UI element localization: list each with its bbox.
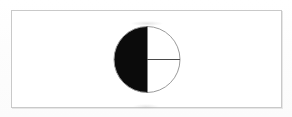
circle-figure <box>0 0 292 117</box>
diagram-canvas <box>0 0 292 117</box>
circle-figure-svg <box>0 0 292 117</box>
